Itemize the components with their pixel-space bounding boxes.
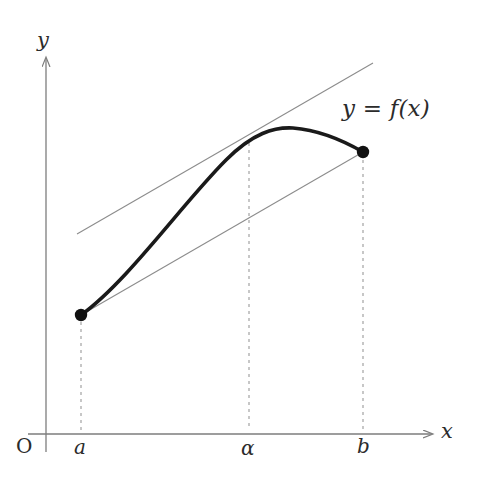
endpoint-dot-b bbox=[357, 146, 369, 158]
y-axis-label: y bbox=[37, 30, 49, 51]
secant-line bbox=[81, 152, 363, 315]
function-curve bbox=[81, 128, 363, 315]
origin-label: O bbox=[16, 436, 32, 456]
endpoint-dot-a bbox=[75, 309, 87, 321]
figure-canvas: y x O a α b y = f(x) bbox=[0, 0, 477, 484]
tick-label-alpha: α bbox=[241, 438, 255, 458]
tangent-line bbox=[77, 63, 373, 234]
tick-label-a: a bbox=[74, 437, 86, 457]
curve-equation-label: y = f(x) bbox=[342, 97, 430, 120]
tick-label-b: b bbox=[357, 436, 370, 456]
x-axis-label: x bbox=[441, 421, 453, 442]
figure-graphics bbox=[0, 0, 477, 484]
